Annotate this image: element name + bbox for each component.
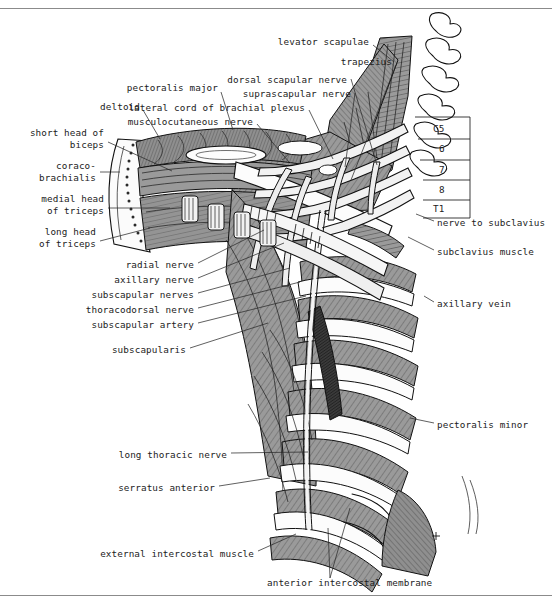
label-long-head-of-triceps: long head of triceps (39, 226, 96, 249)
label-trapezius: trapezius (341, 56, 392, 68)
label-anterior-intercostal-membrane: anterior intercostal membrane (267, 577, 432, 589)
label-coracobrachialis: coraco- brachialis (39, 160, 96, 183)
label-long-thoracic-nerve: long thoracic nerve (119, 449, 227, 461)
label-axillary-vein: axillary vein (437, 298, 511, 310)
label-root-c7: 7 (439, 164, 445, 176)
label-subclavius-muscle: subclavius muscle (437, 246, 534, 258)
label-radial-nerve: radial nerve (126, 259, 194, 271)
label-serratus-anterior: serratus anterior (118, 482, 215, 494)
label-subscapular-nerves: subscapular nerves (91, 289, 194, 301)
label-lateral-cord-of-brachial-plexus: lateral cord of brachial plexus (128, 102, 305, 114)
label-thoracodorsal-nerve: thoracodorsal nerve (86, 304, 194, 316)
label-pectoralis-major: pectoralis major (127, 82, 218, 94)
label-external-intercostal-muscle: external intercostal muscle (100, 548, 254, 560)
label-musculocutaneous-nerve: musculocutaneous nerve (128, 116, 253, 128)
label-suprascapular-nerve: suprascapular nerve (243, 88, 351, 100)
label-root-c5: C5 (433, 123, 444, 135)
label-subscapularis: subscapularis (112, 344, 186, 356)
label-root-c8: 8 (439, 184, 445, 196)
label-subscapular-artery: subscapular artery (91, 319, 194, 331)
label-levator-scapulae: levator scapulae (278, 36, 369, 48)
label-short-head-of-biceps: short head of biceps (30, 127, 104, 150)
label-medial-head-of-triceps: medial head of triceps (41, 193, 104, 216)
anatomy-figure: pectoralis majordeltoidshort head of bic… (0, 0, 552, 604)
label-nerve-to-subclavius: nerve to subclavius (437, 217, 545, 229)
label-dorsal-scapular-nerve: dorsal scapular nerve (227, 74, 347, 86)
label-pectoralis-minor: pectoralis minor (437, 419, 528, 431)
label-root-t1: T1 (433, 203, 444, 215)
label-root-c6: 6 (439, 143, 445, 155)
label-axillary-nerve: axillary nerve (114, 274, 194, 286)
